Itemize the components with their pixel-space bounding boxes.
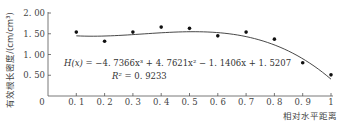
y-tick-label: 1. 50	[23, 29, 45, 39]
x-tick-label: 1	[328, 97, 333, 107]
y-tick-label: 0. 50	[23, 70, 45, 80]
data-point	[244, 30, 248, 34]
x-tick-label: 0. 5	[181, 97, 197, 107]
y-tick-label: 2. 00	[23, 8, 45, 18]
x-tick-label: 0. 1	[68, 97, 84, 107]
r2-label: R²	[111, 71, 122, 81]
root-density-chart: 有效根长密度/(cm/cm³) 2. 001. 501. 000. 50 00.…	[0, 0, 348, 131]
data-point	[273, 37, 277, 41]
y-axis-ticks: 2. 001. 501. 000. 50	[23, 8, 51, 80]
x-tick-label: 0. 8	[266, 97, 282, 107]
x-axis-ticks: 00. 10. 20. 30. 40. 50. 60. 70. 80. 91	[39, 93, 333, 107]
data-point	[159, 25, 163, 29]
data-points	[75, 25, 333, 76]
data-point	[131, 30, 135, 34]
data-point	[216, 34, 220, 38]
data-point	[75, 30, 79, 34]
r-squared: R² = 0. 9233	[111, 71, 167, 81]
y-axis-title: 有效根长密度/(cm/cm³)	[5, 12, 15, 108]
equation-prefix: H(x)	[63, 58, 83, 68]
x-tick-label: 0. 4	[153, 97, 169, 107]
x-tick-label: 0. 2	[96, 97, 112, 107]
y-tick-label: 1. 00	[23, 50, 45, 60]
data-point	[188, 27, 192, 31]
data-point	[103, 39, 107, 43]
data-point	[329, 73, 333, 77]
data-point	[301, 61, 305, 65]
x-tick-label: 0. 9	[295, 97, 311, 107]
equation-body: = −4. 7366x³ + 4. 7621x² − 1. 1406x + 1.…	[83, 58, 291, 68]
r2-value: = 0. 9233	[122, 71, 167, 81]
x-tick-label: 0. 3	[125, 97, 141, 107]
x-tick-label: 0	[39, 97, 44, 107]
x-axis-title: 相对水平距离	[283, 111, 337, 121]
fit-equation: H(x) = −4. 7366x³ + 4. 7621x² − 1. 1406x…	[63, 58, 291, 68]
x-tick-label: 0. 7	[238, 97, 254, 107]
x-tick-label: 0. 6	[210, 97, 226, 107]
